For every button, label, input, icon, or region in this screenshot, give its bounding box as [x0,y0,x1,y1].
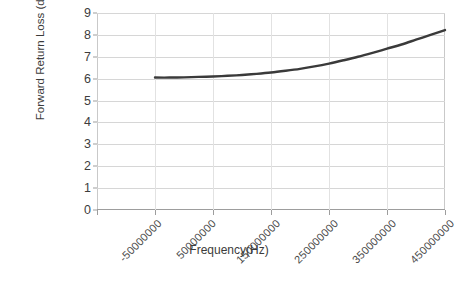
y-tick-label: 5 [84,94,91,108]
x-tick-label: 250000000 [292,217,341,266]
x-tick-label: 150000000 [234,217,283,266]
x-tick-label: 350000000 [350,217,399,266]
y-tick-label: 7 [84,50,91,64]
y-tick-label: 2 [84,159,91,173]
y-tick-label: 8 [84,28,91,42]
y-tick-label: 4 [84,115,91,129]
y-axis-title: Forward Return Loss (dB) [34,0,46,154]
y-tick-label: 3 [84,137,91,151]
y-tick-label: 1 [84,181,91,195]
chart-figure: Forward Return Loss (dB) 0123456789 -500… [0,0,458,284]
x-tick-label: 450000000 [408,217,457,266]
y-tick-label: 9 [84,6,91,20]
x-axis-title: Frequency(Hz) [0,243,458,257]
series-line-forward-return-loss [97,13,445,210]
y-tick-label: 6 [84,72,91,86]
plot-area: 0123456789 [97,13,445,210]
